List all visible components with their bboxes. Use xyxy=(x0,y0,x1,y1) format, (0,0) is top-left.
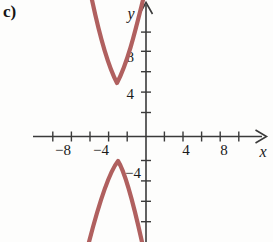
x-tick-label-4: 4 xyxy=(182,142,190,158)
x-tick-label-minus-4: −4 xyxy=(93,142,109,158)
y-tick-label-4: 4 xyxy=(127,86,135,102)
x-axis-label: x xyxy=(258,143,266,160)
x-tick-label-minus-8: −8 xyxy=(55,142,71,158)
y-axis-label: y xyxy=(125,5,135,23)
coordinate-graph: −8 −4 4 8 8 4 −4 y x xyxy=(0,0,273,242)
figure-canvas: c) xyxy=(0,0,273,242)
upper-parabola-curve xyxy=(92,0,143,83)
x-tick-label-8: 8 xyxy=(220,142,228,158)
